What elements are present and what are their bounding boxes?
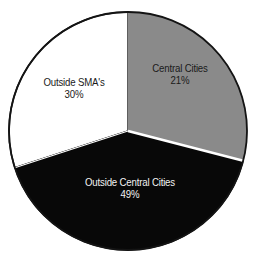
pie-label-outside-central-cities-value: 49% bbox=[63, 188, 197, 200]
pie-label-central-cities-value: 21% bbox=[132, 74, 228, 86]
pie-chart-graphic bbox=[0, 0, 260, 257]
pie-label-outside-smas-value: 30% bbox=[26, 88, 122, 100]
pie-label-central-cities: Central Cities 21% bbox=[132, 62, 228, 87]
pie-label-outside-central-cities: Outside Central Cities 49% bbox=[63, 176, 197, 201]
pie-label-outside-smas-name: Outside SMA's bbox=[26, 76, 122, 88]
pie-label-central-cities-name: Central Cities bbox=[132, 62, 228, 74]
pie-label-outside-central-cities-name: Outside Central Cities bbox=[63, 176, 197, 188]
pie-label-outside-smas: Outside SMA's 30% bbox=[26, 76, 122, 101]
pie-chart-figure: Central Cities 21% Outside SMA's 30% Out… bbox=[0, 0, 260, 257]
